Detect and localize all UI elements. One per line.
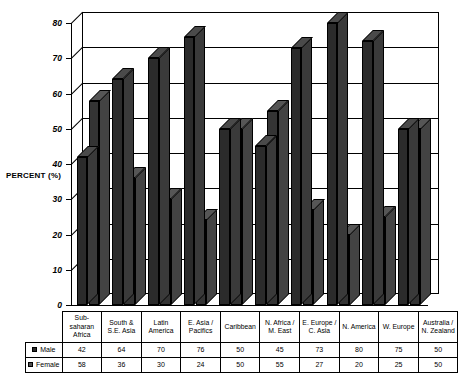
bar-side-face — [301, 37, 312, 305]
bar-side-face — [349, 224, 360, 306]
table-header-cell-3: E. Asia /Pacifics — [181, 312, 221, 343]
table-cell-female-7: 20 — [339, 358, 379, 373]
bar-male-2 — [148, 58, 159, 305]
bar-side-face — [123, 68, 134, 305]
table-header-cell-4: Caribbean — [220, 312, 260, 343]
legend-male: Male — [26, 343, 63, 358]
table-row-female: Female58363024505527202550 — [26, 358, 458, 373]
header-line: S.E. Asia — [102, 327, 141, 335]
bar-side-face — [171, 188, 182, 305]
bar-front-face — [148, 58, 159, 305]
legend-label: Female — [36, 361, 59, 368]
header-line: Caribbean — [221, 323, 260, 331]
table-cell-female-9: 50 — [418, 358, 458, 373]
bar-front-face — [255, 146, 266, 305]
bar-front-face — [219, 129, 230, 305]
bar-side-face — [385, 206, 396, 305]
legend-swatch-male-icon — [32, 347, 37, 352]
header-line: saharan — [63, 323, 102, 331]
bar-side-face — [408, 118, 419, 305]
header-line: Pacifics — [181, 327, 220, 335]
bar-male-7 — [327, 23, 338, 305]
bar-side-face — [99, 90, 110, 305]
bar-front-face — [112, 79, 123, 305]
table-cell-male-3: 76 — [181, 343, 221, 358]
table-cell-female-6: 27 — [300, 358, 340, 373]
bar-male-6 — [291, 48, 302, 305]
bar-front-face — [77, 157, 88, 305]
bar-side-face — [266, 135, 277, 305]
table-cell-male-9: 50 — [418, 343, 458, 358]
table-cell-male-1: 64 — [102, 343, 142, 358]
bar-side-face — [420, 118, 431, 305]
table-cell-male-2: 70 — [141, 343, 181, 358]
bar-front-face — [184, 37, 195, 305]
header-line: E. Asia / — [181, 319, 220, 327]
bar-side-face — [194, 26, 205, 305]
bar-side-face — [313, 199, 324, 305]
header-line: E. Europe / — [300, 319, 339, 327]
bar-side-face — [159, 47, 170, 305]
bar-male-0 — [77, 157, 88, 305]
table-cell-male-0: 42 — [62, 343, 102, 358]
bar-male-1 — [112, 79, 123, 305]
table-header-cell-0: Sub-saharanAfrica — [62, 312, 102, 343]
table-cell-female-2: 30 — [141, 358, 181, 373]
header-line: M. East — [260, 327, 299, 335]
bar-side-face — [230, 118, 241, 305]
header-line: Africa — [63, 331, 102, 339]
legend-label: Male — [40, 346, 55, 353]
header-line: Sub- — [63, 314, 102, 322]
bar-male-4 — [219, 129, 230, 305]
bar-side-face — [135, 167, 146, 305]
table-header-blank — [26, 312, 63, 343]
header-line: Australia / — [419, 319, 458, 327]
table-cell-male-5: 45 — [260, 343, 300, 358]
table-cell-female-0: 58 — [62, 358, 102, 373]
table-header-cell-2: LatinAmerica — [141, 312, 181, 343]
table-cell-male-4: 50 — [220, 343, 260, 358]
bar-side-face — [373, 30, 384, 305]
table-header-row: Sub-saharanAfricaSouth &S.E. AsiaLatinAm… — [26, 312, 458, 343]
bar-side-face — [278, 100, 289, 305]
bar-front-face — [327, 23, 338, 305]
header-line: W. Europe — [379, 323, 418, 331]
table-header-cell-8: W. Europe — [379, 312, 419, 343]
table-header-cell-9: Australia /N. Zealand — [418, 312, 458, 343]
bar-male-3 — [184, 37, 195, 305]
table-cell-male-8: 75 — [379, 343, 419, 358]
legend-swatch-female-icon — [28, 362, 33, 367]
bar-male-5 — [255, 146, 266, 305]
bar-front-face — [362, 41, 373, 305]
bar-side-face — [337, 12, 348, 305]
table-cell-female-4: 50 — [220, 358, 260, 373]
bar-side-face — [87, 146, 98, 305]
table-body: Male42647076504573807550Female5836302450… — [26, 343, 458, 373]
table-cell-female-1: 36 — [102, 358, 142, 373]
header-line: N. Zealand — [419, 327, 458, 335]
bar-male-9 — [398, 129, 409, 305]
table-cell-female-8: 25 — [379, 358, 419, 373]
table-header-cell-5: N. Africa /M. East — [260, 312, 300, 343]
bar-side-face — [242, 118, 253, 305]
header-line: N. America — [340, 323, 379, 331]
header-line: South & — [102, 319, 141, 327]
table-header-cell-1: South &S.E. Asia — [102, 312, 142, 343]
table-header-cell-7: N. America — [339, 312, 379, 343]
data-table: Sub-saharanAfricaSouth &S.E. AsiaLatinAm… — [25, 311, 458, 373]
table-row-male: Male42647076504573807550 — [26, 343, 458, 358]
legend-female: Female — [26, 358, 63, 373]
table-header-cell-6: E. Europe /C. Asia — [300, 312, 340, 343]
header-line: C. Asia — [300, 327, 339, 335]
table-cell-female-3: 24 — [181, 358, 221, 373]
table-cell-male-6: 73 — [300, 343, 340, 358]
header-line: Latin — [142, 319, 181, 327]
bar-side-face — [206, 209, 217, 305]
table-cell-female-5: 55 — [260, 358, 300, 373]
bar-male-8 — [362, 41, 373, 305]
header-line: America — [142, 327, 181, 335]
bar-front-face — [398, 129, 409, 305]
table-cell-male-7: 80 — [339, 343, 379, 358]
bar-front-face — [291, 48, 302, 305]
